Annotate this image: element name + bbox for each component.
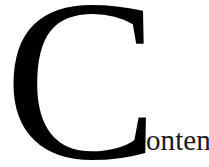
contents-heading-page: C ontents [0,0,209,167]
dropcap-letter-c: C [4,0,159,167]
heading-remainder-text: ontents [146,126,209,155]
